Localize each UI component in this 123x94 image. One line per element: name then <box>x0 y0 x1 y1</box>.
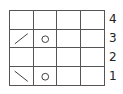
cell-r4-c2 <box>34 11 58 30</box>
cell-r3-c1 <box>10 30 34 49</box>
knitting-chart-grid <box>9 10 105 86</box>
cell-r2-c4 <box>81 48 105 67</box>
cell-r1-c3 <box>57 67 81 86</box>
cell-r3-c4 <box>81 30 105 49</box>
cell-r1-c2 <box>34 67 58 86</box>
cell-r2-c1 <box>10 48 34 67</box>
cell-r3-c3 <box>57 30 81 49</box>
row-number-2: 2 <box>109 48 117 67</box>
k2tog-slash-icon <box>10 30 33 48</box>
cell-r1-c1 <box>10 67 34 86</box>
cell-r4-c4 <box>81 11 105 30</box>
cell-r2-c3 <box>57 48 81 67</box>
cell-r3-c2 <box>34 30 58 49</box>
row-numbers: 4 3 2 1 <box>109 10 117 86</box>
yarn-over-circle-icon <box>34 30 57 48</box>
row-number-4: 4 <box>109 10 117 29</box>
yarn-over-circle-icon <box>34 67 57 86</box>
cell-r2-c2 <box>34 48 58 67</box>
row-number-3: 3 <box>109 29 117 48</box>
ssk-backslash-icon <box>10 67 33 86</box>
cell-r4-c3 <box>57 11 81 30</box>
row-number-1: 1 <box>109 67 117 86</box>
cell-r1-c4 <box>81 67 105 86</box>
cell-r4-c1 <box>10 11 34 30</box>
